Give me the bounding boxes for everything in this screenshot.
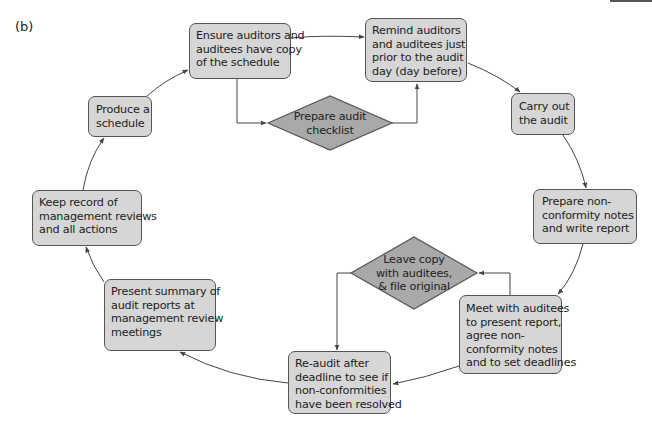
arrow-remind-to-carry-out [468, 63, 520, 92]
node-text: Prepare non- [542, 195, 630, 209]
node-text: of the schedule [196, 56, 284, 70]
arrow-leave-copy-to-reaudit [337, 273, 351, 350]
node-text: Ensure auditors and [196, 29, 284, 43]
node-text: Meet with auditees [466, 302, 555, 316]
node-text: day (day before) [372, 65, 460, 79]
node-text: Present summary of [111, 285, 209, 299]
node-meet-auditees: Meet with auditees to present report, ag… [459, 295, 562, 374]
node-text: the audit [519, 114, 567, 128]
node-text: Leave copy [364, 253, 464, 267]
node-text: meetings [111, 326, 209, 340]
node-remind: Remind auditors and auditees just prior … [365, 18, 467, 82]
node-text: and write report [542, 222, 630, 236]
node-text: management reviews [39, 210, 135, 224]
node-re-audit: Re-audit after deadline to see if non-co… [288, 351, 391, 414]
arrow-meet-to-leave-copy [479, 273, 510, 295]
node-text: with auditees, [364, 267, 464, 281]
diamond-text-leave-copy: Leave copy with auditees, & file origina… [364, 253, 464, 294]
node-text: management review [111, 312, 209, 326]
node-text: Re-audit after [295, 357, 384, 371]
node-prepare-nonconformity: Prepare non- conformity notes and write … [533, 189, 637, 244]
node-text: checklist [290, 124, 370, 138]
node-text: Keep record of [39, 196, 135, 210]
arrow-summary-to-keep-record [86, 247, 104, 282]
node-keep-record: Keep record of management reviews and al… [32, 190, 142, 246]
arrow-nonconformity-to-meet [558, 244, 583, 294]
node-text: Remind auditors [372, 24, 460, 38]
node-text: agree non- [466, 329, 555, 343]
node-text: and all actions [39, 223, 135, 237]
node-text: conformity notes [542, 209, 630, 223]
arrow-meet-to-reaudit [393, 366, 459, 384]
node-carry-out: Carry out the audit [511, 93, 575, 135]
node-text: non-conformities [295, 384, 384, 398]
node-text: auditees have copy [196, 43, 284, 57]
node-text: and auditees just [372, 38, 460, 52]
diamond-text-prepare-checklist: Prepare audit checklist [290, 110, 370, 137]
node-text: deadline to see if [295, 371, 384, 385]
node-produce-schedule: Produce a schedule [88, 96, 152, 137]
arrow-reaudit-to-summary [180, 352, 288, 383]
node-text: prior to the audit [372, 51, 460, 65]
node-text: schedule [96, 117, 144, 131]
audit-cycle-diagram: (b) [0, 0, 652, 433]
node-text: conformity notes [466, 343, 555, 357]
node-text: Carry out [519, 100, 567, 114]
node-text: Produce a [96, 103, 144, 117]
node-text: & file original [364, 280, 464, 294]
node-text: Prepare audit [290, 110, 370, 124]
arrow-checklist-to-remind [392, 84, 417, 123]
arrow-carry-out-to-nonconformity [563, 135, 586, 188]
node-text: audit reports at [111, 299, 209, 313]
node-text: and to set deadlines [466, 356, 555, 370]
arrow-produce-to-ensure [147, 70, 188, 96]
node-ensure-copy: Ensure auditors and auditees have copy o… [189, 23, 291, 79]
arrow-ensure-to-checklist [237, 79, 266, 123]
node-text: have been resolved [295, 398, 384, 412]
node-present-summary: Present summary of audit reports at mana… [104, 279, 216, 351]
arrow-keep-record-to-produce [83, 138, 104, 190]
node-text: to present report, [466, 316, 555, 330]
